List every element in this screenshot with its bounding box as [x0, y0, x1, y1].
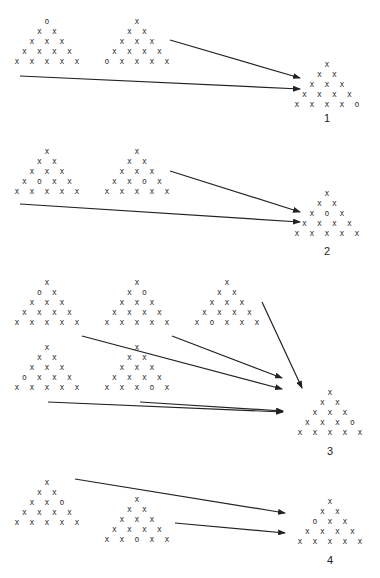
- cross-marker: x: [137, 525, 152, 534]
- cross-marker: x: [220, 278, 235, 287]
- cross-marker: x: [312, 219, 327, 228]
- cross-marker: x: [10, 57, 25, 66]
- cross-marker: x: [55, 363, 70, 372]
- cross-marker: x: [25, 167, 40, 176]
- cross-marker: x: [47, 288, 62, 297]
- circle-marker: o: [137, 288, 152, 297]
- cross-marker: x: [47, 47, 62, 56]
- cross-marker: x: [342, 219, 357, 228]
- cross-marker: x: [55, 518, 70, 527]
- cross-marker: x: [312, 70, 327, 79]
- cross-marker: x: [17, 177, 32, 186]
- cross-marker: x: [235, 298, 250, 307]
- cross-marker: x: [107, 177, 122, 186]
- cross-marker: x: [338, 428, 353, 437]
- cross-marker: x: [25, 518, 40, 527]
- cross-marker: x: [152, 47, 167, 56]
- circle-marker: o: [308, 517, 323, 526]
- cross-marker: x: [70, 57, 85, 66]
- cross-marker: x: [130, 187, 145, 196]
- cross-marker: x: [315, 418, 330, 427]
- cross-marker: x: [312, 90, 327, 99]
- cross-marker: x: [47, 488, 62, 497]
- cross-marker: x: [320, 60, 335, 69]
- cross-marker: x: [25, 298, 40, 307]
- cross-marker: x: [250, 318, 265, 327]
- cross-marker: x: [345, 527, 360, 536]
- cross-marker: x: [70, 318, 85, 327]
- cross-marker: x: [315, 527, 330, 536]
- circle-marker: o: [32, 288, 47, 297]
- cross-marker: x: [40, 57, 55, 66]
- cross-marker: x: [293, 428, 308, 437]
- arrow-group1-1: [20, 76, 300, 89]
- cross-marker: x: [145, 318, 160, 327]
- cross-marker: x: [32, 308, 47, 317]
- cross-marker: x: [145, 515, 160, 524]
- cross-marker: x: [122, 505, 137, 514]
- cross-marker: x: [62, 508, 77, 517]
- cross-marker: x: [115, 318, 130, 327]
- cross-marker: x: [55, 383, 70, 392]
- cross-marker: x: [115, 57, 130, 66]
- cross-marker: x: [152, 373, 167, 382]
- cross-marker: x: [130, 57, 145, 66]
- cross-marker: x: [25, 37, 40, 46]
- cross-marker: x: [327, 90, 342, 99]
- cross-marker: x: [330, 527, 345, 536]
- cross-marker: x: [130, 318, 145, 327]
- cross-marker: x: [338, 537, 353, 546]
- cross-marker: x: [122, 47, 137, 56]
- cross-marker: x: [342, 90, 357, 99]
- cross-marker: x: [47, 157, 62, 166]
- cross-marker: x: [10, 318, 25, 327]
- cross-marker: x: [122, 177, 137, 186]
- cross-marker: x: [122, 308, 137, 317]
- cross-marker: x: [323, 537, 338, 546]
- cross-marker: x: [305, 229, 320, 238]
- cross-marker: x: [40, 343, 55, 352]
- cross-marker: x: [160, 535, 175, 544]
- cross-marker: x: [152, 525, 167, 534]
- cross-marker: x: [55, 187, 70, 196]
- cross-marker: x: [145, 187, 160, 196]
- cross-marker: x: [115, 167, 130, 176]
- cross-marker: x: [300, 527, 315, 536]
- cross-marker: x: [25, 383, 40, 392]
- cross-marker: x: [32, 373, 47, 382]
- cross-marker: x: [122, 157, 137, 166]
- cross-marker: x: [40, 498, 55, 507]
- cross-marker: x: [315, 507, 330, 516]
- cross-marker: x: [17, 308, 32, 317]
- cross-marker: x: [220, 318, 235, 327]
- cross-marker: x: [115, 363, 130, 372]
- cross-marker: x: [130, 17, 145, 26]
- cross-marker: x: [338, 517, 353, 526]
- cross-marker: x: [293, 537, 308, 546]
- circle-marker: o: [40, 17, 55, 26]
- group-label-4: 4: [320, 554, 340, 566]
- cross-marker: x: [115, 383, 130, 392]
- cross-marker: x: [32, 508, 47, 517]
- cross-marker: x: [47, 508, 62, 517]
- cross-marker: x: [145, 363, 160, 372]
- cross-marker: x: [32, 47, 47, 56]
- cross-marker: x: [212, 308, 227, 317]
- cross-marker: x: [145, 57, 160, 66]
- cross-marker: x: [40, 478, 55, 487]
- cross-marker: x: [137, 308, 152, 317]
- cross-marker: x: [62, 177, 77, 186]
- cross-marker: x: [145, 535, 160, 544]
- arrow-group3-1: [172, 336, 282, 378]
- cross-marker: x: [100, 535, 115, 544]
- cross-marker: x: [70, 187, 85, 196]
- cross-marker: x: [297, 219, 312, 228]
- cross-marker: x: [40, 37, 55, 46]
- cross-marker: x: [323, 517, 338, 526]
- cross-marker: x: [308, 428, 323, 437]
- cross-marker: x: [327, 219, 342, 228]
- cross-marker: x: [160, 383, 175, 392]
- cross-marker: x: [25, 187, 40, 196]
- arrow-group3-0: [262, 302, 302, 388]
- cross-marker: x: [290, 229, 305, 238]
